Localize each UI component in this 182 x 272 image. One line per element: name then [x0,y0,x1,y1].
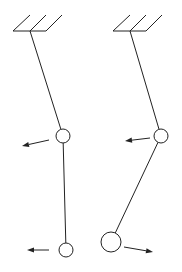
arrowhead-icon [146,248,153,253]
pendulum-mass [101,232,121,252]
hatch-line [130,15,146,31]
pendulum-rod [130,31,159,129]
velocity-arrow [22,140,49,147]
hatch-line [46,15,62,31]
pendulum-left [13,15,73,257]
hatch-line [30,15,46,31]
arrowhead-icon [27,247,34,252]
velocity-arrow [27,247,49,252]
hatch-line [13,15,30,31]
pendulum-rod [30,31,61,129]
velocity-arrow [125,138,150,143]
velocity-arrow [124,247,153,253]
arrowhead-icon [22,142,29,147]
ceiling-support [113,15,162,31]
double-pendulum-diagram [0,0,182,272]
arrowhead-icon [125,138,132,143]
ceiling-support [13,15,62,31]
hatch-line [146,15,162,31]
pendulum-mass [154,129,168,143]
pendulum-rod [115,142,158,233]
pendulum-mass [56,129,70,143]
pendulum-right [101,15,168,253]
hatch-line [113,15,130,31]
pendulum-rod [63,143,66,243]
pendulum-mass [59,243,73,257]
